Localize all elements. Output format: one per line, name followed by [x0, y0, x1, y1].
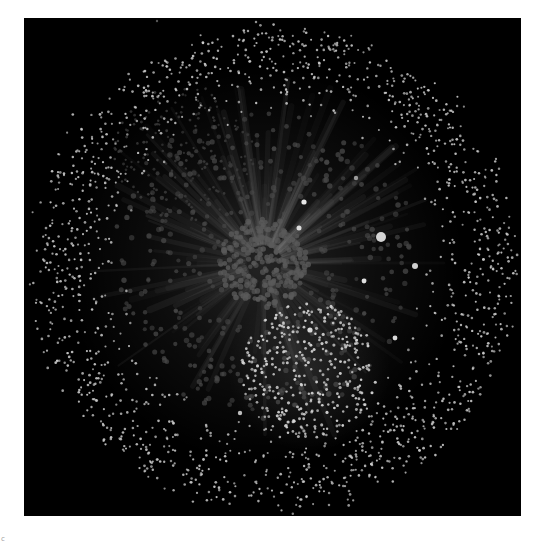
- figure-page: c: [0, 0, 542, 545]
- highlight-node: [376, 232, 386, 242]
- highlight-node: [156, 20, 158, 22]
- highlight-node: [412, 263, 418, 269]
- network-graph-canvas: [24, 18, 521, 516]
- highlight-node: [238, 411, 242, 415]
- highlight-node: [307, 327, 312, 332]
- corner-mark: c: [1, 535, 5, 543]
- network-graph-svg: [24, 18, 521, 516]
- highlight-node: [393, 336, 398, 341]
- highlight-node: [354, 176, 358, 180]
- highlight-node: [297, 226, 302, 231]
- highlight-node: [301, 199, 306, 204]
- highlight-node: [362, 279, 367, 284]
